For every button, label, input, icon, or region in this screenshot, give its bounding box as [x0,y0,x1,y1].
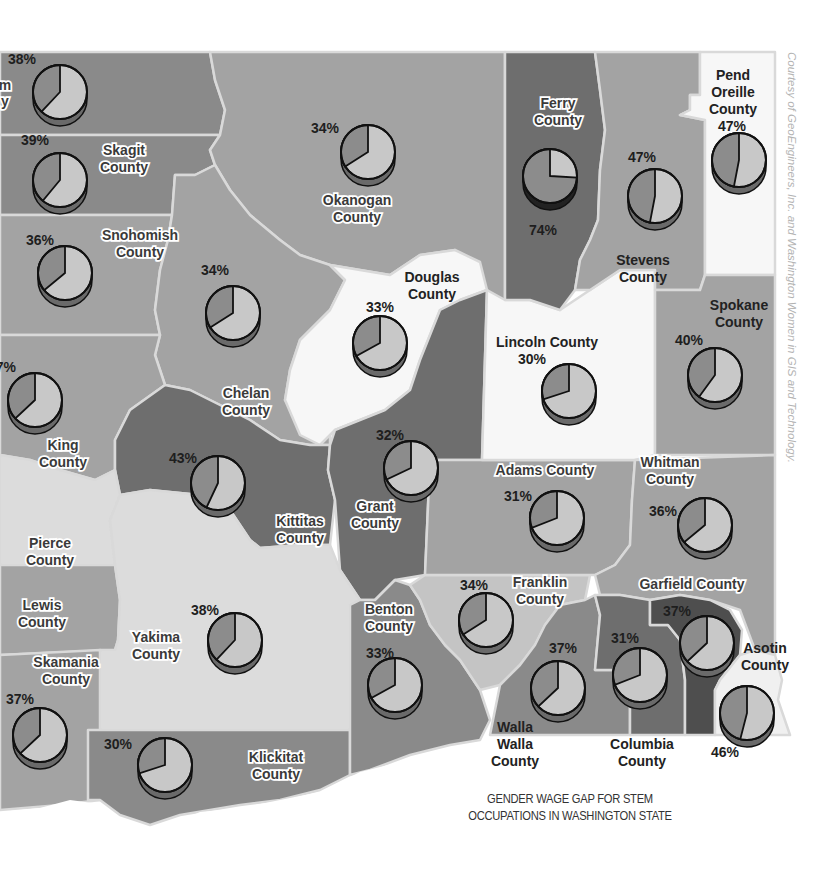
label-grant: Grant [356,498,394,514]
pct-kittitas: 43% [169,450,198,466]
pie-pend-oreille [712,133,766,194]
credit-text: Courtesy of GeoEngineers, Inc. and Washi… [780,52,798,452]
pct-columbia: 31% [611,630,640,646]
label-skamania: Skamania [33,654,99,670]
label-columbia: Columbia [610,736,674,752]
label-columbia: County [618,753,666,769]
pct-skamania: 37% [6,691,35,707]
label-walla-walla: Walla [497,736,533,752]
label-lincoln: Lincoln County [496,334,598,350]
label-kittitas: County [276,530,324,546]
pie-franklin [459,593,513,654]
label-grant: County [351,515,399,531]
pct-walla-walla: 37% [549,640,578,656]
label-skamania: County [42,671,90,687]
pie-adams [530,491,584,552]
label-kittitas: Kittitas [276,513,324,529]
pct-chelan: 34% [201,262,230,278]
pie-kittitas [191,456,245,517]
pie-garfield [680,616,734,677]
map-title: GENDER WAGE GAP FOR STEM OCCUPATIONS IN … [441,790,699,824]
label-yakima: County [132,646,180,662]
pct-skagit: 39% [21,132,50,148]
label-snohomish: Snohomish [102,227,178,243]
pie-whatcom [33,65,87,126]
label-pend-oreille: Pend [716,67,750,83]
pct-grant: 32% [376,427,405,443]
label-king: County [39,454,87,470]
label-stevens: Stevens [616,252,670,268]
label-lewis: Lewis [23,597,62,613]
label-walla-walla: Walla [497,719,533,735]
pie-klickitat [138,738,192,799]
label-ferry: County [534,112,582,128]
pct-yakima: 38% [191,602,220,618]
label-okanogan: Okanogan [323,192,391,208]
pct-pend-oreille: 47% [718,118,747,134]
pie-stevens [628,169,682,230]
pie-skamania [13,708,67,769]
label-walla-walla: County [491,753,539,769]
label-snohomish: County [116,244,164,260]
label-adams: Adams County [496,462,595,478]
pie-skagit [33,153,87,214]
pct-benton: 33% [366,645,395,661]
label-skagit: County [100,159,148,175]
label-yakima: Yakima [132,629,180,645]
label-douglas: Douglas [404,269,459,285]
label-klickitat: Klickitat [249,749,304,765]
label-klickitat: County [252,766,300,782]
pie-douglas [353,316,407,377]
label-stevens: County [619,269,667,285]
pct-adams: 31% [504,488,533,504]
label-asotin: Asotin [743,640,787,656]
label-benton: County [365,618,413,634]
label-asotin: County [741,657,789,673]
pie-whitman [678,498,732,559]
label-skagit: Skagit [103,142,145,158]
label-whatcom: y [1,93,9,109]
pct-klickitat: 30% [104,736,133,752]
washington-county-map: 38%my39%SkagitCounty36%SnohomishCounty37… [0,0,837,874]
pie-columbia [613,648,667,709]
pct-whatcom: 38% [8,51,37,67]
pct-snohomish: 36% [26,232,55,248]
label-ferry: Ferry [540,95,575,111]
pie-walla-walla [531,661,585,722]
pie-grant [384,441,438,502]
label-whatcom: m [0,77,11,93]
label-chelan: County [222,402,270,418]
label-lewis: County [18,614,66,630]
pie-king [8,373,62,434]
label-pend-oreille: Oreille [711,84,755,100]
pie-snohomish [38,246,92,307]
pie-spokane [688,348,742,409]
pct-okanogan: 34% [311,120,340,136]
label-franklin: Franklin [513,574,567,590]
pct-franklin: 34% [460,577,489,593]
map-title-line-2: OCCUPATIONS IN WASHINGTON STATE [441,807,699,824]
pie-asotin [720,686,774,747]
label-whitman: Whitman [640,454,699,470]
pct-lincoln: 30% [518,351,547,367]
pie-benton [368,658,422,719]
label-spokane: County [715,314,763,330]
pct-asotin: 46% [711,744,740,760]
label-chelan: Chelan [223,385,270,401]
pct-spokane: 40% [675,332,704,348]
pct-whitman: 36% [649,503,678,519]
pie-okanogan [341,125,395,186]
pie-ferry [523,149,577,210]
label-benton: Benton [365,601,413,617]
pct-stevens: 47% [628,149,657,165]
label-okanogan: County [333,209,381,225]
pie-chelan [206,286,260,347]
label-garfield: Garfield County [639,576,744,592]
map-title-line-1: GENDER WAGE GAP FOR STEM [441,790,699,807]
pct-king: 37% [0,359,17,375]
pct-ferry: 74% [529,222,558,238]
label-king: King [47,437,78,453]
label-pend-oreille: County [709,101,757,117]
label-pierce: County [26,552,74,568]
label-franklin: County [516,591,564,607]
